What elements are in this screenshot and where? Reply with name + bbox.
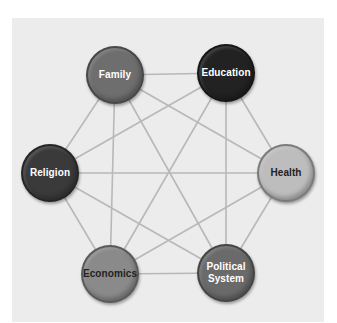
node-economics-label: Economics <box>83 268 137 280</box>
node-religion: Religion <box>21 144 79 202</box>
node-economics: Economics <box>81 245 139 303</box>
node-health: Health <box>257 144 315 202</box>
node-political-system: Political System <box>197 244 255 302</box>
node-political-system-label: Political System <box>204 261 248 285</box>
node-family: Family <box>86 46 144 104</box>
node-family-label: Family <box>99 69 131 81</box>
node-education: Education <box>197 44 255 102</box>
node-education-label: Education <box>201 67 250 79</box>
node-religion-label: Religion <box>30 167 70 179</box>
node-health-label: Health <box>270 167 301 179</box>
